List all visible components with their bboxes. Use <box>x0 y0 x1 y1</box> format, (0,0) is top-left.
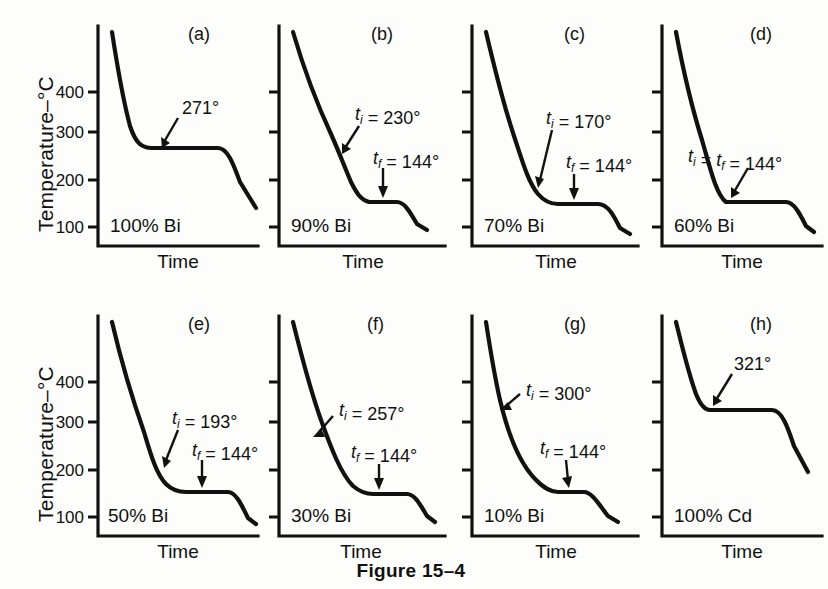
axis-lines <box>279 26 445 246</box>
annotation-arrow-h <box>713 374 732 406</box>
annotation-e-0: ti = 193° <box>172 408 237 432</box>
x-axis-title-a: Time <box>157 251 199 272</box>
y-axis-title-row2: Temperature–°C <box>34 366 58 522</box>
annotation-arrow-a <box>161 118 178 148</box>
figure-caption: Figure 15–4 <box>0 560 822 582</box>
tick-label-300: 300 <box>56 123 84 142</box>
composition-label-b: 90% Bi <box>291 215 351 236</box>
panel-f: (f) ti = 257° tf = 144° 30% Bi Time <box>255 308 455 558</box>
annotation-arrow-b-tf <box>378 168 388 198</box>
panel-letter-e: (e) <box>188 314 210 334</box>
x-axis-title-e: Time <box>157 541 199 562</box>
tick-label-200: 200 <box>56 171 84 190</box>
axis-lines <box>472 316 638 536</box>
panel-h: (h) 321° 100% Cd Time <box>638 308 828 558</box>
annotation-d-0: ti = tf = 144° <box>688 146 782 174</box>
annotation-arrow-c-tf <box>569 174 579 200</box>
composition-label-e: 50% Bi <box>108 505 168 526</box>
cooling-curve-c <box>486 32 630 234</box>
axes-h <box>652 316 822 536</box>
annotation-g-1: tf = 144° <box>540 438 606 462</box>
x-axis-title-d: Time <box>721 251 763 272</box>
cooling-curve-h <box>676 322 808 472</box>
composition-label-f: 30% Bi <box>291 505 351 526</box>
panel-e: 400 300 200 100 (e) ti = 193° tf = 144° … <box>60 308 260 558</box>
cooling-curve-b <box>293 32 427 230</box>
annotation-b-1: tf = 144° <box>373 148 439 172</box>
axes-d <box>652 26 822 246</box>
x-axis-title-f: Time <box>340 541 382 562</box>
panel-letter-f: (f) <box>367 314 384 334</box>
composition-label-c: 70% Bi <box>484 215 544 236</box>
composition-label-a: 100% Bi <box>110 215 181 236</box>
panel-letter-b: (b) <box>371 24 393 44</box>
tick-label-400: 400 <box>56 83 84 102</box>
annotation-f-0: ti = 257° <box>339 400 404 424</box>
cooling-curve-d <box>676 32 814 232</box>
x-axis-title-b: Time <box>342 251 384 272</box>
panel-letter-g: (g) <box>564 314 586 334</box>
composition-label-d: 60% Bi <box>674 215 734 236</box>
composition-label-g: 10% Bi <box>484 505 544 526</box>
panel-c: (c) ti = 170° tf = 144° 70% Bi Time <box>448 18 648 268</box>
panel-g: (g) ti = 300° tf = 144° 10% Bi Time <box>448 308 648 558</box>
annotation-arrow-g-tf <box>562 460 572 488</box>
annotation-f-1: tf = 144° <box>351 442 417 466</box>
tick-label-100: 100 <box>56 218 84 237</box>
panel-letter-c: (c) <box>564 24 585 44</box>
axes-b <box>269 26 445 246</box>
x-axis-title-g: Time <box>535 541 577 562</box>
annotation-c-0: ti = 170° <box>546 108 611 132</box>
tick-label-200: 200 <box>56 461 84 480</box>
axis-lines <box>98 26 258 246</box>
tick-label-400: 400 <box>56 373 84 392</box>
tick-label-300: 300 <box>56 413 84 432</box>
cooling-curve-a <box>112 32 256 208</box>
annotation-b-0: ti = 230° <box>355 104 420 128</box>
composition-label-h: 100% Cd <box>674 505 752 526</box>
annotation-arrow-b-ti <box>342 126 359 154</box>
tick-label-100: 100 <box>56 508 84 527</box>
x-axis-title-c: Time <box>535 251 577 272</box>
annotation-arrow-e-ti <box>162 430 178 468</box>
axes-a: 400 300 200 100 <box>56 26 258 246</box>
y-axis-title-row1: Temperature–°C <box>34 76 58 232</box>
panel-letter-h: (h) <box>750 314 772 334</box>
panel-d: (d) ti = tf = 144° 60% Bi Time <box>638 18 828 268</box>
annotation-arrow-g-ti <box>500 394 520 410</box>
annotation-h-0: 321° <box>734 354 771 374</box>
annotation-arrow-e-tf <box>197 460 207 488</box>
annotation-e-1: tf = 144° <box>192 440 258 464</box>
x-axis-title-h: Time <box>721 541 763 562</box>
annotation-arrow-c-ti <box>535 130 552 188</box>
cooling-curve-g <box>486 322 618 522</box>
annotation-c-1: tf = 144° <box>566 152 632 176</box>
panel-letter-d: (d) <box>750 24 772 44</box>
annotation-arrow-f-ti <box>313 416 333 437</box>
panel-b: (b) ti = 230° tf = 144° 90% Bi Time <box>255 18 455 268</box>
annotation-g-0: ti = 300° <box>526 380 591 404</box>
annotation-arrow-f-tf <box>374 464 384 490</box>
panel-a: 400 300 200 100 (a) 271° 100% Bi Time <box>60 18 260 268</box>
annotation-a-0: 271° <box>182 98 219 118</box>
axis-lines <box>662 316 822 536</box>
panel-letter-a: (a) <box>188 24 210 44</box>
